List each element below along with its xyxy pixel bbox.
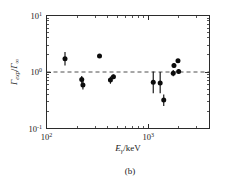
data-point [176, 69, 181, 74]
data-point [171, 63, 176, 68]
data-marker [161, 97, 166, 102]
y-tick-label: 100 [31, 67, 43, 77]
x-axis-title: Eγ/keV [114, 143, 141, 154]
y-axis-title: Γexp/Γ∞ [9, 59, 20, 86]
data-marker [97, 53, 102, 58]
data-point [97, 53, 102, 58]
data-point [63, 52, 68, 66]
data-marker [63, 56, 68, 61]
data-point [151, 72, 156, 94]
data-marker [171, 71, 176, 76]
data-marker [111, 74, 116, 79]
data-marker [151, 80, 156, 85]
data-marker [171, 63, 176, 68]
data-point [111, 74, 116, 79]
data-marker [176, 69, 181, 74]
data-point [158, 72, 163, 93]
data-marker [80, 82, 85, 87]
axis-titles-group: Eγ/keVΓexp/Γ∞(b) [9, 59, 141, 176]
x-tick-label: 102 [41, 132, 53, 142]
data-marker [158, 80, 163, 85]
figure-panel-b: 10210310110010-1 Eγ/keVΓexp/Γ∞(b) [0, 0, 232, 184]
data-point [171, 70, 176, 76]
data-point [175, 58, 180, 63]
scatter-plot-svg: 10210310110010-1 Eγ/keVΓexp/Γ∞(b) [0, 0, 232, 184]
x-tick-label: 103 [142, 132, 154, 142]
data-points-group [63, 52, 182, 106]
figure-caption: (b) [125, 166, 136, 176]
data-marker [175, 58, 180, 63]
y-tick-label: 101 [31, 11, 43, 21]
data-point [161, 94, 166, 106]
tick-labels-group: 10210310110010-1 [29, 11, 154, 143]
